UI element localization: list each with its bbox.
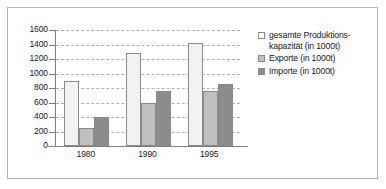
bar-group — [64, 30, 109, 146]
bar — [156, 91, 171, 146]
legend-swatch-icon — [258, 32, 265, 39]
x-tick-label: 1990 — [117, 149, 179, 159]
bar-chart: 16001400120010008006004002000 1980199019… — [8, 8, 379, 180]
legend-swatch-icon — [258, 55, 265, 62]
y-tick-label: 600 — [14, 98, 48, 107]
y-tick-label: 1400 — [14, 40, 48, 49]
legend-label: gesamte Produktions- kapazität (in 1000t… — [269, 30, 351, 51]
x-axis-line — [48, 146, 248, 147]
legend-label: Importe (in 1000t) — [269, 66, 335, 77]
y-tick-label: 400 — [14, 112, 48, 121]
x-tick-label: 1995 — [178, 149, 240, 159]
figure-frame: 16001400120010008006004002000 1980199019… — [7, 7, 378, 179]
bar — [126, 53, 141, 146]
y-tick-label: 200 — [14, 127, 48, 136]
bar — [94, 117, 109, 146]
bar — [203, 91, 218, 146]
bar-group — [188, 30, 233, 146]
bar — [64, 81, 79, 146]
y-tick-label: 1200 — [14, 54, 48, 63]
y-tick-label: 800 — [14, 83, 48, 92]
y-tick-label: 1000 — [14, 69, 48, 78]
y-tick-label: 0 — [14, 141, 48, 150]
y-tick-label: 1600 — [14, 25, 48, 34]
legend-label: Exporte (in 1000t) — [269, 53, 335, 64]
legend-swatch-icon — [258, 68, 265, 75]
bar — [188, 43, 203, 146]
bar — [218, 84, 233, 146]
y-axis-line — [55, 30, 56, 147]
y-axis-labels: 16001400120010008006004002000 — [10, 8, 48, 180]
legend-item: gesamte Produktions- kapazität (in 1000t… — [258, 30, 376, 51]
bar — [141, 103, 156, 147]
legend-item: Exporte (in 1000t) — [258, 53, 376, 64]
x-tick-label: 1980 — [55, 149, 117, 159]
legend-item: Importe (in 1000t) — [258, 66, 376, 77]
legend: gesamte Produktions- kapazität (in 1000t… — [258, 30, 376, 78]
bar — [79, 128, 94, 146]
bar-group — [126, 30, 171, 146]
